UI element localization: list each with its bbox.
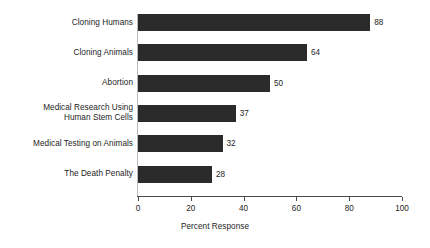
x-axis-tick-label: 60 <box>292 203 301 214</box>
x-axis-tick <box>138 197 139 201</box>
bar <box>138 44 307 61</box>
bar-value-label: 64 <box>311 44 320 61</box>
x-axis-tick <box>191 197 192 201</box>
bar <box>138 105 236 122</box>
x-axis-tick-label: 80 <box>345 203 354 214</box>
bar-value-label: 37 <box>240 105 249 122</box>
x-axis-tick <box>296 197 297 201</box>
x-axis-tick-label: 100 <box>395 203 409 214</box>
x-axis-tick-label: 40 <box>239 203 248 214</box>
category-label: The Death Penalty <box>0 169 133 180</box>
category-label: Medical Testing on Animals <box>0 139 133 150</box>
bar-value-label: 28 <box>216 166 225 183</box>
bar <box>138 166 212 183</box>
bar-value-label: 50 <box>274 75 283 92</box>
x-axis-tick <box>402 197 403 201</box>
category-label: Cloning Animals <box>0 48 133 59</box>
bar-chart: Cloning Humans Cloning Animals Abortion … <box>0 0 430 248</box>
bar <box>138 75 270 92</box>
category-label: Medical Research Using Human Stem Cells <box>0 103 133 124</box>
x-axis-tick <box>349 197 350 201</box>
category-axis: Cloning Humans Cloning Animals Abortion … <box>0 0 133 196</box>
plot-area: 88 64 50 37 32 28 0 20 40 60 80 100 <box>138 14 402 196</box>
bar-value-label: 88 <box>374 14 383 31</box>
x-axis-tick-label: 0 <box>136 203 141 214</box>
x-axis-tick-label: 20 <box>186 203 195 214</box>
x-axis-tick <box>244 197 245 201</box>
x-axis-line <box>137 196 402 197</box>
category-label: Abortion <box>0 78 133 89</box>
x-axis-title: Percent Response <box>0 222 430 231</box>
bar-value-label: 32 <box>227 135 236 152</box>
category-label: Cloning Humans <box>0 17 133 28</box>
bar <box>138 135 223 152</box>
bar <box>138 14 370 31</box>
